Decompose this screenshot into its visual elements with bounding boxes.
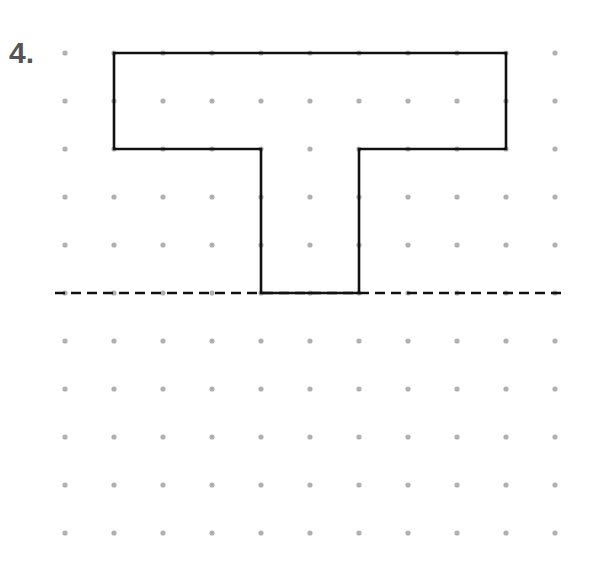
grid-dot (503, 482, 508, 487)
grid-dot (160, 98, 165, 103)
grid-dot (209, 386, 214, 391)
grid-dot (258, 386, 263, 391)
grid-dot (454, 530, 459, 535)
grid-dot (258, 530, 263, 535)
grid-dot (503, 242, 508, 247)
grid-dot (62, 194, 67, 199)
grid-dot (160, 242, 165, 247)
grid-dot (503, 530, 508, 535)
grid-dot (111, 338, 116, 343)
grid-dot (307, 482, 312, 487)
dot-grid-diagram (0, 0, 594, 563)
grid-dot (111, 242, 116, 247)
grid-dot (454, 338, 459, 343)
grid-dot (454, 98, 459, 103)
grid-dot (258, 338, 263, 343)
grid-dot (454, 482, 459, 487)
grid-dot (405, 482, 410, 487)
grid-dot (405, 194, 410, 199)
grid-dot (405, 530, 410, 535)
grid-dot (552, 530, 557, 535)
grid-dot (62, 338, 67, 343)
grid-dot (160, 194, 165, 199)
grid-dot (454, 386, 459, 391)
grid-dot (258, 434, 263, 439)
grid-dot (160, 482, 165, 487)
grid-dot (552, 50, 557, 55)
grid-dot (307, 434, 312, 439)
grid-dot (454, 194, 459, 199)
grid-dot (209, 530, 214, 535)
grid-dot (307, 242, 312, 247)
grid-dot (552, 338, 557, 343)
grid-dot (111, 194, 116, 199)
grid-dot (307, 194, 312, 199)
grid-dot (356, 338, 361, 343)
grid-dot (111, 482, 116, 487)
grid-dot (503, 434, 508, 439)
grid-dot (111, 434, 116, 439)
grid-dot (160, 530, 165, 535)
grid-dot (503, 194, 508, 199)
grid-dot (62, 146, 67, 151)
grid-dot (209, 482, 214, 487)
grid-dot (405, 434, 410, 439)
grid-dot (258, 98, 263, 103)
grid-dot (503, 386, 508, 391)
grid-dot (62, 386, 67, 391)
grid-dot (307, 146, 312, 151)
grid-dot (552, 98, 557, 103)
grid-dot (160, 386, 165, 391)
grid-dot (209, 242, 214, 247)
grid-dot (62, 242, 67, 247)
grid-dot (111, 530, 116, 535)
grid-dot (503, 338, 508, 343)
grid-dot (62, 482, 67, 487)
grid-dot (62, 98, 67, 103)
grid-dot (552, 146, 557, 151)
grid-dot (356, 434, 361, 439)
grid-dot (552, 482, 557, 487)
grid-dot (552, 434, 557, 439)
grid-dot (62, 434, 67, 439)
grid-dot (209, 194, 214, 199)
grid-dot (307, 98, 312, 103)
grid-dot (209, 338, 214, 343)
grid-dot (160, 290, 165, 295)
grid-dot (307, 530, 312, 535)
grid-dot (454, 242, 459, 247)
grid-dot (405, 242, 410, 247)
grid-dot (111, 386, 116, 391)
grid-dot (356, 98, 361, 103)
grid-dot (356, 482, 361, 487)
t-shape-figure (114, 53, 506, 293)
grid-dot (356, 386, 361, 391)
grid-dot (307, 338, 312, 343)
grid-dot (405, 386, 410, 391)
grid-dot (552, 194, 557, 199)
grid-dot (552, 386, 557, 391)
grid-dot (356, 530, 361, 535)
grid-dot (62, 50, 67, 55)
grid-dot (258, 482, 263, 487)
grid-dot (62, 530, 67, 535)
grid-dot (307, 386, 312, 391)
grid-dot (209, 290, 214, 295)
grid-dot (209, 434, 214, 439)
grid-dot (454, 434, 459, 439)
grid-dot (209, 98, 214, 103)
grid-dot (160, 338, 165, 343)
grid-dot (405, 98, 410, 103)
grid-dot (160, 434, 165, 439)
grid-dot (405, 338, 410, 343)
grid-dot (552, 242, 557, 247)
